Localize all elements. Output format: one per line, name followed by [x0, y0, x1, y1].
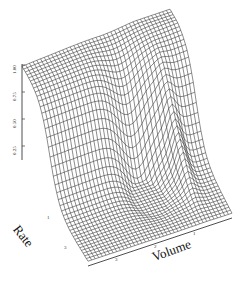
rate-tick-3: 3 [64, 245, 67, 250]
z-tick-label-050: 0.50 [12, 119, 17, 128]
surface-mesh [22, 9, 232, 261]
volume-tick-1: 1 [193, 231, 196, 236]
z-tick-label-100: 1.00 [12, 65, 17, 74]
volume-tick-2: 2 [154, 244, 157, 249]
z-tick-label-075: 0.75 [12, 92, 17, 101]
z-tick-label-025: 0.25 [12, 146, 17, 155]
volume-tick-3: 3 [115, 257, 118, 262]
surface-wireframe [22, 9, 232, 261]
rate-tick-1: 1 [47, 215, 50, 220]
